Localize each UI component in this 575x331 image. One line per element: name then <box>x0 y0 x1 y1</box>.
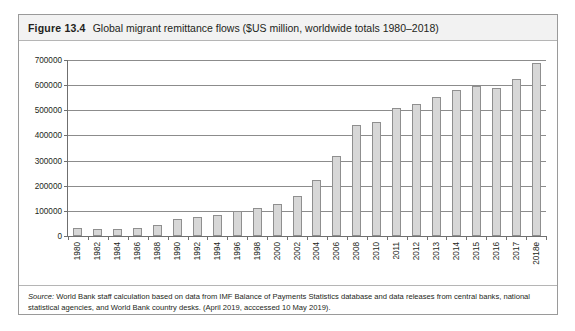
chart-bar <box>293 196 302 236</box>
x-axis-tick-label: 2000 <box>273 242 282 260</box>
chart-bar <box>213 215 222 236</box>
chart-bar <box>233 211 242 236</box>
x-axis-tick <box>307 236 308 240</box>
x-axis-tick <box>287 236 288 240</box>
y-axis-tick-label: 0 <box>57 232 62 241</box>
x-axis-tick-label: 1986 <box>133 242 142 260</box>
x-axis-tick-label: 1990 <box>173 242 182 260</box>
y-axis-tick-label: 300000 <box>35 156 62 165</box>
x-axis-tick-label: 2002 <box>293 242 302 260</box>
x-axis-tick <box>108 236 109 240</box>
y-axis-tick <box>64 161 68 162</box>
x-axis-tick-label: 1994 <box>213 242 222 260</box>
x-axis-tick-label: 2018e <box>532 242 541 265</box>
y-axis-tick <box>64 110 68 111</box>
x-axis-tick <box>427 236 428 240</box>
x-axis-tick-label: 1996 <box>233 242 242 260</box>
chart-bar <box>153 225 162 236</box>
x-axis-tick-label: 2004 <box>312 242 321 260</box>
x-axis-tick-label: 1988 <box>153 242 162 260</box>
y-axis-tick <box>64 135 68 136</box>
x-axis-tick-label: 1992 <box>193 242 202 260</box>
chart-bar <box>532 63 541 236</box>
chart-bar <box>312 180 321 236</box>
figure-header: Figure 13.4 Global migrant remittance fl… <box>19 15 557 41</box>
x-axis-tick-label: 2015 <box>472 242 481 260</box>
chart-bar <box>392 108 401 236</box>
source-label: Source: <box>28 292 54 301</box>
chart-bar <box>452 90 461 236</box>
x-axis-tick <box>227 236 228 240</box>
x-axis-tick-label: 2006 <box>332 242 341 260</box>
y-axis-tick <box>64 85 68 86</box>
x-axis-tick-label: 2011 <box>392 242 401 260</box>
y-axis-tick-label: 700000 <box>35 56 62 65</box>
x-axis-tick <box>466 236 467 240</box>
figure-caption: Global migrant remittance flows ($US mil… <box>93 22 439 34</box>
chart-bar <box>73 228 82 236</box>
x-axis-tick-label: 2013 <box>432 242 441 260</box>
figure-card: Figure 13.4 Global migrant remittance fl… <box>18 14 558 315</box>
figure-number: Figure 13.4 <box>28 22 86 34</box>
x-axis-tick-label: 1998 <box>253 242 262 260</box>
chart-bar <box>352 125 361 236</box>
x-axis-tick <box>407 236 408 240</box>
x-axis-tick <box>327 236 328 240</box>
chart-bar <box>372 122 381 236</box>
x-axis-tick <box>247 236 248 240</box>
x-axis-tick <box>526 236 527 240</box>
x-axis-tick <box>267 236 268 240</box>
y-axis-tick-label: 200000 <box>35 181 62 190</box>
x-axis-tick-label: 1982 <box>93 242 102 260</box>
y-axis-tick <box>64 60 68 61</box>
chart-bar <box>113 229 122 236</box>
x-axis-tick-label: 1980 <box>73 242 82 260</box>
chart-bar <box>253 208 262 236</box>
x-axis-tick-label: 2008 <box>352 242 361 260</box>
x-axis-tick-label: 2016 <box>492 242 501 260</box>
source-text: World Bank staff calculation based on da… <box>28 292 530 312</box>
y-axis-tick-label: 500000 <box>35 106 62 115</box>
x-axis-tick-label: 2014 <box>452 242 461 260</box>
x-axis-tick <box>188 236 189 240</box>
x-axis-tick <box>387 236 388 240</box>
chart-bar <box>93 229 102 236</box>
chart-bar <box>412 104 421 237</box>
chart-bar <box>193 217 202 236</box>
y-axis-tick-label: 400000 <box>35 131 62 140</box>
y-axis-tick-label: 100000 <box>35 206 62 215</box>
chart-bar <box>512 79 521 236</box>
x-axis-tick <box>486 236 487 240</box>
chart-bar <box>133 228 142 236</box>
x-axis-tick <box>446 236 447 240</box>
x-axis-tick <box>367 236 368 240</box>
x-axis-tick-label: 2017 <box>512 242 521 260</box>
chart-bar <box>432 97 441 236</box>
y-axis-tick <box>64 186 68 187</box>
x-axis-tick-label: 2010 <box>372 242 381 260</box>
x-axis-tick <box>68 236 69 240</box>
x-axis-tick-label: 2012 <box>412 242 421 260</box>
source-divider <box>19 285 557 286</box>
x-axis-tick <box>148 236 149 240</box>
source-note: Source: World Bank staff calculation bas… <box>28 291 548 314</box>
chart-bar <box>332 156 341 236</box>
x-axis-tick <box>168 236 169 240</box>
gridline <box>68 60 546 61</box>
x-axis-tick <box>546 236 547 240</box>
chart-bar <box>173 219 182 236</box>
x-axis-tick <box>88 236 89 240</box>
chart-bar <box>273 204 282 236</box>
x-axis-tick <box>207 236 208 240</box>
x-axis-tick-label: 1984 <box>113 242 122 260</box>
chart-bar <box>492 88 501 236</box>
chart-bar <box>472 86 481 236</box>
x-axis-tick <box>128 236 129 240</box>
x-axis-tick <box>347 236 348 240</box>
y-axis-tick-label: 600000 <box>35 81 62 90</box>
y-axis-tick <box>64 211 68 212</box>
x-axis-tick <box>506 236 507 240</box>
chart-plot-area: 0100000200000300000400000500000600000700… <box>67 60 546 237</box>
